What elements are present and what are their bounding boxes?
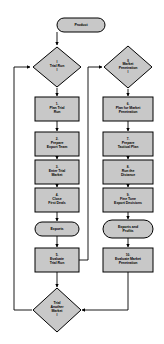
node-step-6-shape bbox=[103, 97, 153, 121]
node-product-shape bbox=[57, 18, 105, 32]
node-trial-run-shape bbox=[33, 47, 81, 87]
node-step-2-shape bbox=[35, 132, 79, 156]
node-step-7-shape bbox=[103, 132, 153, 156]
node-step-3-shape bbox=[35, 160, 79, 184]
node-exports-and-profits-shape bbox=[103, 220, 153, 238]
node-step-10-shape bbox=[103, 248, 153, 272]
node-step-8-shape bbox=[103, 160, 153, 184]
node-trial-another-market-shape bbox=[33, 288, 81, 332]
flowchart-graphics bbox=[0, 0, 164, 344]
edge-step10-to-trialanother bbox=[82, 272, 128, 310]
node-market-penetration-shape bbox=[104, 46, 152, 88]
edge-loop-back-to-trialrun bbox=[14, 67, 32, 310]
node-step-1-shape bbox=[35, 97, 79, 121]
node-shapes bbox=[33, 18, 153, 332]
node-exports-shape bbox=[35, 222, 79, 236]
flowchart-canvas: Product I Trial Run I 1. Plan Trial Run … bbox=[0, 0, 164, 344]
node-step-5-shape bbox=[35, 248, 79, 272]
edge-step5-to-marketpenetration bbox=[78, 67, 102, 260]
node-step-4-shape bbox=[35, 188, 79, 212]
node-step-9-shape bbox=[103, 188, 153, 212]
